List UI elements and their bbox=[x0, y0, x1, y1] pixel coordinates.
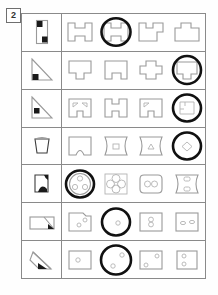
square-bottom-tab-icon bbox=[64, 57, 96, 83]
option-2-row-2[interactable] bbox=[98, 52, 134, 89]
option-4-row-3[interactable] bbox=[169, 90, 205, 127]
option-4-row-1[interactable] bbox=[169, 14, 205, 51]
option-3-row-4[interactable] bbox=[134, 128, 170, 165]
square-two-holes-vertical-icon bbox=[171, 247, 203, 273]
problem-number-label: 2 bbox=[11, 11, 16, 20]
h-shape-notched-both-sides-icon bbox=[100, 19, 132, 45]
prompt-cell-row-6 bbox=[22, 203, 62, 240]
cross-plus-block-icon bbox=[135, 57, 167, 83]
notched-block-right-tab-icon bbox=[135, 19, 167, 45]
notched-block-center-tab-icon bbox=[171, 19, 203, 45]
option-3-row-2[interactable] bbox=[134, 52, 170, 89]
worksheet-page: 2 bbox=[0, 0, 218, 295]
option-1-row-2[interactable] bbox=[62, 52, 98, 89]
option-3-row-5[interactable] bbox=[134, 165, 170, 202]
rounded-block-two-holes-icon bbox=[135, 171, 167, 197]
hourglass-block-square-hole-icon bbox=[100, 133, 132, 159]
problem-number-box: 2 bbox=[6, 8, 21, 23]
square-single-hole-icon bbox=[100, 209, 132, 235]
option-4-row-2[interactable] bbox=[169, 52, 205, 89]
parallelogram-black-wedge-diagonal-icon bbox=[26, 246, 58, 274]
option-4-row-5[interactable] bbox=[169, 165, 205, 202]
prompt-cell-row-1 bbox=[22, 14, 62, 51]
table-row bbox=[22, 203, 205, 241]
option-2-row-3[interactable] bbox=[98, 90, 134, 127]
hourglass-block-triangle-hole-icon bbox=[135, 133, 167, 159]
h-block-double-notch-icon bbox=[100, 95, 132, 121]
option-3-row-3[interactable] bbox=[134, 90, 170, 127]
square-corner-notch-two-holes-icon bbox=[64, 209, 96, 235]
option-3-row-1[interactable] bbox=[134, 14, 170, 51]
table-row bbox=[22, 90, 205, 128]
table-row bbox=[22, 165, 205, 203]
disc-three-holes-icon bbox=[64, 171, 96, 197]
options-row-4 bbox=[62, 128, 205, 165]
table-row bbox=[22, 241, 205, 278]
option-2-row-1[interactable] bbox=[98, 14, 134, 51]
square-corner-marks-icon bbox=[171, 95, 203, 121]
option-3-row-7[interactable] bbox=[134, 241, 170, 278]
square-black-arc-corner-icon bbox=[29, 170, 55, 198]
right-triangle-black-square-bottom-left-icon bbox=[27, 94, 57, 122]
option-1-row-6[interactable] bbox=[62, 203, 98, 240]
bucket-trapezoid-shape-icon bbox=[29, 133, 55, 159]
square-bottom-tab-icon bbox=[171, 57, 203, 83]
option-4-row-6[interactable] bbox=[169, 203, 205, 240]
square-two-holes-diagonal-icon bbox=[100, 247, 132, 273]
hourglass-block-two-slots-icon bbox=[171, 171, 203, 197]
options-row-6 bbox=[62, 203, 205, 240]
square-two-stacked-holes-icon bbox=[135, 209, 167, 235]
square-single-hole-icon bbox=[64, 247, 96, 273]
diamond-hole-shape-icon bbox=[171, 133, 203, 159]
option-1-row-3[interactable] bbox=[62, 90, 98, 127]
four-lobe-clover-block-icon bbox=[100, 171, 132, 197]
options-row-1 bbox=[62, 14, 205, 51]
square-two-small-holes-icon bbox=[171, 209, 203, 235]
option-1-row-1[interactable] bbox=[62, 14, 98, 51]
answer-grid bbox=[21, 13, 206, 279]
rectangle-diagonal-black-wedge-icon bbox=[26, 210, 58, 234]
prompt-cell-row-4 bbox=[22, 128, 62, 165]
square-bottom-arch-cut-icon bbox=[64, 133, 96, 159]
options-row-5 bbox=[62, 165, 205, 202]
option-1-row-5[interactable] bbox=[62, 165, 98, 202]
square-bottom-tab-corner-cut-icon bbox=[100, 57, 132, 83]
option-4-row-4[interactable] bbox=[169, 128, 205, 165]
option-4-row-7[interactable] bbox=[169, 241, 205, 278]
option-1-row-4[interactable] bbox=[62, 128, 98, 165]
options-row-2 bbox=[62, 52, 205, 89]
option-2-row-5[interactable] bbox=[98, 165, 134, 202]
options-row-3 bbox=[62, 90, 205, 127]
table-row bbox=[22, 52, 205, 90]
table-row bbox=[22, 14, 205, 52]
vertical-rectangle-two-black-squares-icon bbox=[29, 17, 55, 47]
prompt-cell-row-2 bbox=[22, 52, 62, 89]
square-two-triangle-holes-bottom-notch-icon bbox=[64, 95, 96, 121]
option-1-row-7[interactable] bbox=[62, 241, 98, 278]
option-2-row-6[interactable] bbox=[98, 203, 134, 240]
options-row-7 bbox=[62, 241, 205, 278]
option-2-row-7[interactable] bbox=[98, 241, 134, 278]
option-3-row-6[interactable] bbox=[134, 203, 170, 240]
square-one-triangle-hole-bottom-notch-icon bbox=[135, 95, 167, 121]
option-2-row-4[interactable] bbox=[98, 128, 134, 165]
h-shape-notched-both-sides-icon bbox=[64, 19, 96, 45]
prompt-cell-row-7 bbox=[22, 241, 62, 278]
table-row bbox=[22, 128, 205, 166]
prompt-cell-row-5 bbox=[22, 165, 62, 202]
prompt-cell-row-3 bbox=[22, 90, 62, 127]
right-triangle-black-square-bottom-left-icon bbox=[27, 56, 57, 84]
square-hole-corner-icon bbox=[135, 247, 167, 273]
